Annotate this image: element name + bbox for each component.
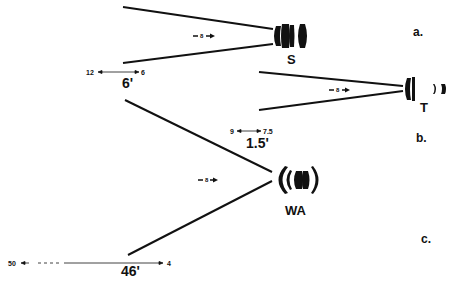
lens-label-s: S xyxy=(287,53,296,66)
range-far-c: 50 xyxy=(8,260,16,267)
fov-line-lower-a xyxy=(123,44,273,63)
fov-line-lower-c xyxy=(128,181,272,255)
aperture-value-c: 8 xyxy=(205,177,208,183)
range-arrow-b xyxy=(237,130,261,133)
fov-line-upper-b xyxy=(259,72,403,86)
lens-wa-icon xyxy=(279,166,319,194)
aperture-value-b: 8 xyxy=(336,87,339,93)
panel-a-lines xyxy=(123,7,273,63)
panel-letter-a: a. xyxy=(413,26,423,38)
lens-label-wa: WA xyxy=(285,204,306,217)
range-arrow-a xyxy=(98,71,139,74)
panel-letter-b: b. xyxy=(416,132,427,144)
diagram-canvas xyxy=(0,0,454,289)
aperture-arrow-a xyxy=(193,34,215,39)
distance-label-b: 1.5' xyxy=(246,136,269,150)
range-near-c: 4 xyxy=(167,260,171,267)
range-arrow-c xyxy=(21,262,163,265)
panel-letter-c: c. xyxy=(421,233,431,245)
lens-t-icon xyxy=(405,77,446,101)
range-far-b: 9 xyxy=(230,128,234,135)
distance-label-c: 46' xyxy=(121,264,140,278)
range-near-a: 6 xyxy=(141,69,145,76)
fov-line-upper-a xyxy=(123,7,273,29)
lens-s-icon xyxy=(274,24,307,48)
aperture-arrow-b xyxy=(329,88,350,93)
panel-b-lines xyxy=(259,72,403,110)
distance-label-a: 6' xyxy=(122,76,133,90)
lens-label-t: T xyxy=(420,101,428,114)
range-far-a: 12 xyxy=(86,69,94,76)
fov-line-lower-b xyxy=(259,91,403,110)
aperture-value-a: 8 xyxy=(200,33,203,39)
range-near-b: 7.5 xyxy=(263,128,273,135)
panel-c-lines xyxy=(125,100,272,255)
